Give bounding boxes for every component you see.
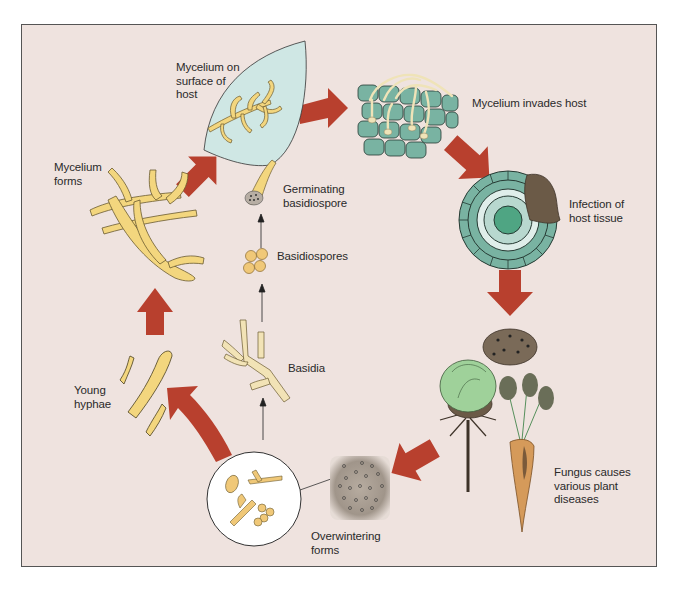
diseased-carrot [499, 373, 554, 532]
label-plant-diseases: Fungus causes various plant diseases [554, 466, 631, 507]
diseased-cabbage [440, 360, 496, 492]
label-young-hyphae: Young hyphae [74, 384, 111, 411]
label-mycelium-on-host: Mycelium on surface of host [176, 61, 239, 102]
label-mycelium-forms: Mycelium forms [54, 161, 102, 188]
germinating-basidiospore-drawing [245, 160, 276, 205]
label-mycelium-invades: Mycelium invades host [472, 97, 586, 111]
overwintering-soil-patch [330, 456, 390, 520]
spore-arrows [258, 214, 266, 440]
host-leaf [204, 41, 306, 166]
label-basidiospores: Basidiospores [277, 250, 348, 264]
arrow-to-plants [487, 270, 533, 316]
infected-tissue-cross-section [459, 171, 560, 269]
young-hyphae-drawing [120, 351, 172, 436]
label-germinating: Germinating basidiospore [283, 183, 347, 210]
diseased-potato [483, 329, 537, 365]
basidiospores-drawing [244, 249, 268, 274]
arrow-to-invades [298, 88, 348, 128]
arrow-to-young-hyphae [167, 386, 232, 462]
label-infection: Infection of host tissue [569, 198, 624, 225]
label-basidia: Basidia [288, 362, 325, 376]
label-overwintering: Overwintering forms [311, 530, 381, 557]
arrow-to-mycelium-forms [137, 288, 173, 335]
basidia-drawing [222, 320, 290, 402]
arrow-to-overwintering [380, 429, 445, 492]
cycle-arrows [137, 88, 533, 492]
